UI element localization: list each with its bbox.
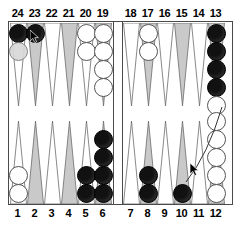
- checker-dark-point-13[interactable]: [207, 78, 226, 97]
- point-number-13: 13: [206, 6, 226, 20]
- checker-dark-point-6[interactable]: [94, 184, 113, 203]
- point-triangle-14: [191, 23, 208, 106]
- point-4[interactable]: [61, 121, 78, 204]
- point-number-6: 6: [93, 206, 113, 220]
- checker-light-point-12[interactable]: [207, 184, 226, 203]
- checker-dark-point-23[interactable]: [26, 24, 45, 43]
- point-18[interactable]: [123, 23, 140, 106]
- checker-dark-point-8[interactable]: [139, 166, 158, 185]
- point-15[interactable]: [174, 23, 191, 106]
- checker-dark-point-13[interactable]: [207, 60, 226, 79]
- point-triangle-18: [123, 23, 140, 106]
- point-7[interactable]: [123, 121, 140, 204]
- checker-light-point-12[interactable]: [207, 130, 226, 149]
- point-14[interactable]: [191, 23, 208, 106]
- checker-light-point-19[interactable]: [94, 42, 113, 61]
- point-number-12: 12: [206, 206, 226, 220]
- point-triangle-21: [61, 23, 78, 106]
- checker-light-point-19[interactable]: [94, 24, 113, 43]
- board-frame: [8, 21, 233, 205]
- point-triangle-15: [174, 23, 191, 106]
- point-21[interactable]: [61, 23, 78, 106]
- point-triangle-22: [44, 23, 61, 106]
- point-triangle-2: [27, 121, 44, 204]
- point-triangle-3: [44, 121, 61, 204]
- checker-dark-point-8[interactable]: [139, 184, 158, 203]
- point-triangle-16: [157, 23, 174, 106]
- point-16[interactable]: [157, 23, 174, 106]
- checker-light-point-1[interactable]: [9, 184, 28, 203]
- point-triangle-7: [123, 121, 140, 204]
- checker-light-point-17[interactable]: [139, 24, 158, 43]
- point-3[interactable]: [44, 121, 61, 204]
- checker-dark-point-6[interactable]: [94, 130, 113, 149]
- board-bar[interactable]: [113, 22, 123, 204]
- checker-light-point-1[interactable]: [9, 166, 28, 185]
- point-triangle-9: [157, 121, 174, 204]
- point-11[interactable]: [191, 121, 208, 204]
- checker-light-point-12[interactable]: [207, 148, 226, 167]
- checker-light-point-19[interactable]: [94, 60, 113, 79]
- point-triangle-4: [61, 121, 78, 204]
- checker-dark-point-13[interactable]: [207, 42, 226, 61]
- point-22[interactable]: [44, 23, 61, 106]
- checker-ghost-point-24[interactable]: [9, 42, 28, 61]
- backgammon-board-app: 242322212019181716151413 123456789101112: [0, 0, 242, 227]
- point-numbers-bottom: 123456789101112: [0, 206, 242, 220]
- checker-light-point-12[interactable]: [207, 166, 226, 185]
- checker-dark-point-13[interactable]: [207, 24, 226, 43]
- checker-light-point-19[interactable]: [94, 78, 113, 97]
- point-numbers-top: 242322212019181716151413: [0, 6, 242, 20]
- checker-dark-point-10[interactable]: [173, 184, 192, 203]
- checker-dark-point-6[interactable]: [94, 148, 113, 167]
- point-2[interactable]: [27, 121, 44, 204]
- checker-light-point-17[interactable]: [139, 42, 158, 61]
- checker-light-point-12[interactable]: [207, 112, 226, 131]
- point-9[interactable]: [157, 121, 174, 204]
- point-number-19: 19: [93, 6, 113, 20]
- point-triangle-11: [191, 121, 208, 204]
- checker-dark-point-6[interactable]: [94, 166, 113, 185]
